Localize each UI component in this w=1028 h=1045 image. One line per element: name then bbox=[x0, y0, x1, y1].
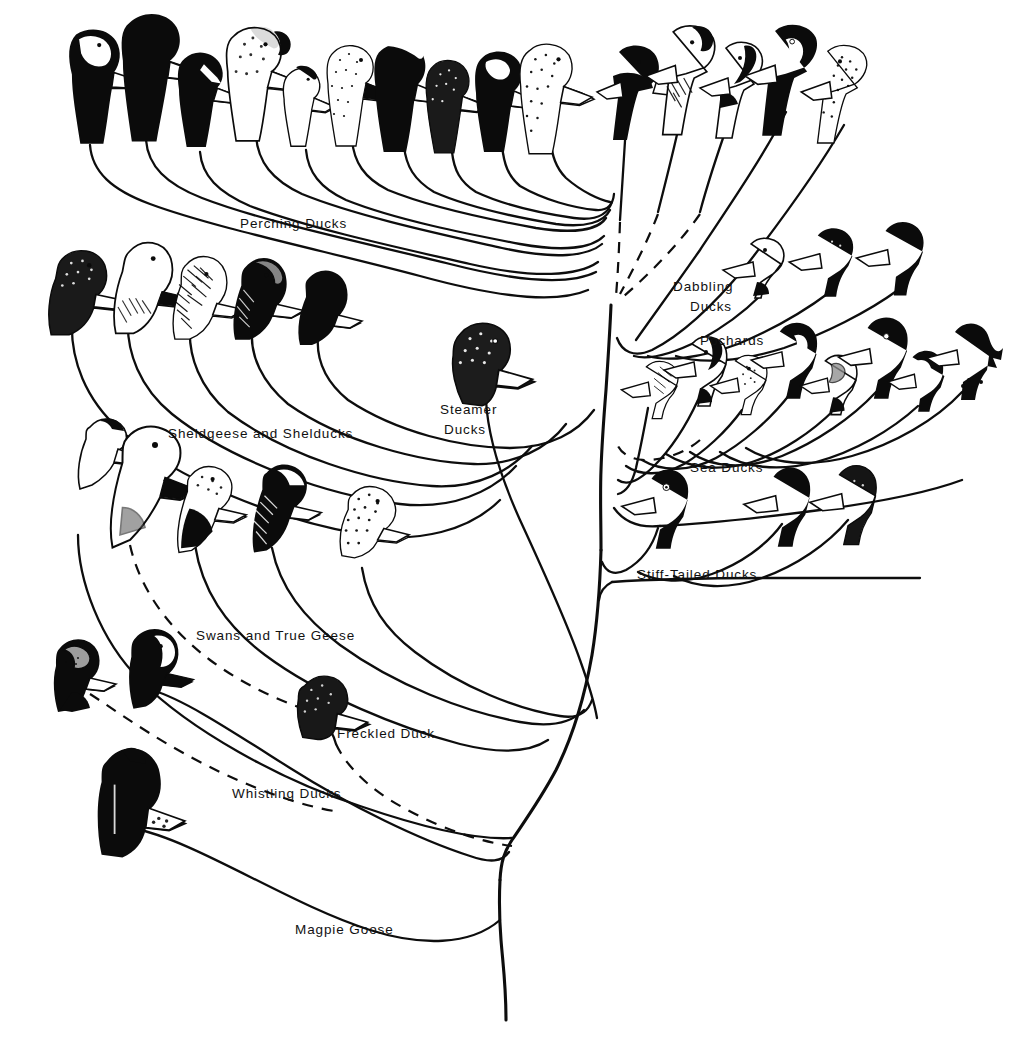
head-group-dabbling-ducks-lower bbox=[723, 222, 924, 298]
branch-perch-10 bbox=[550, 138, 610, 202]
branch-freckled-dashed bbox=[336, 744, 512, 846]
label-pochards: Pochards bbox=[700, 333, 764, 348]
duck-head bbox=[129, 629, 194, 709]
branch-dabble-dashed-2 bbox=[620, 214, 658, 294]
duck-head bbox=[178, 467, 247, 553]
figure-canvas: Perching Ducks Dabbling Ducks Pochards S… bbox=[0, 0, 1028, 1045]
duck-head bbox=[54, 639, 116, 712]
branch-sheld-4 bbox=[252, 330, 566, 464]
duck-head bbox=[789, 228, 853, 296]
branch-poch-dashed bbox=[618, 440, 700, 460]
branch-perch-9 bbox=[502, 146, 614, 210]
branch-perch-3 bbox=[200, 152, 598, 274]
duck-head bbox=[453, 323, 535, 405]
label-dabbling-ducks-line2: Ducks bbox=[690, 299, 732, 314]
branch-swan-4 bbox=[362, 568, 592, 717]
branch-dabble-dashed-1 bbox=[616, 222, 620, 296]
head-group-sheldgeese-shelducks bbox=[49, 243, 362, 345]
head-group-sea-ducks bbox=[622, 466, 876, 549]
label-magpie-goose: Magpie Goose bbox=[295, 922, 394, 937]
duck-head bbox=[745, 25, 817, 136]
head-group-whistling-ducks bbox=[54, 629, 194, 712]
head-group-perching-ducks bbox=[69, 14, 594, 154]
branch-swan-2 bbox=[195, 545, 548, 750]
label-whistling-ducks: Whistling Ducks bbox=[232, 786, 342, 801]
duck-head bbox=[340, 487, 409, 558]
duck-head bbox=[856, 222, 923, 295]
label-perching-ducks: Perching Ducks bbox=[240, 216, 347, 231]
label-sheldgeese-shelducks: Sheldgeese and Shelducks bbox=[168, 426, 353, 441]
trunk-root bbox=[499, 880, 506, 1020]
head-group-dabbling-ducks-upper bbox=[597, 25, 867, 143]
label-steamer-ducks-line1: Steamer bbox=[440, 402, 497, 417]
head-group-steamer-ducks bbox=[453, 323, 535, 405]
duck-head bbox=[646, 26, 715, 135]
label-stiff-tailed-ducks: Stiff-Tailed Ducks bbox=[637, 567, 757, 582]
duck-head bbox=[233, 258, 303, 340]
duck-head bbox=[520, 44, 594, 154]
label-dabbling-ducks-line1-text: Dabbling bbox=[673, 279, 734, 294]
label-freckled-duck: Freckled Duck bbox=[337, 726, 435, 741]
label-swans-true-geese: Swans and True Geese bbox=[196, 628, 355, 643]
phylogenetic-tree-diagram: Perching Ducks Dabbling Ducks Pochards S… bbox=[0, 0, 1028, 1045]
duck-head bbox=[298, 270, 362, 345]
trunk-upper bbox=[601, 305, 611, 550]
label-steamer-ducks-line2: Ducks bbox=[444, 422, 486, 437]
duck-head bbox=[744, 468, 810, 547]
duck-head bbox=[810, 466, 876, 545]
branch-perch-7 bbox=[404, 146, 610, 225]
label-sea-ducks: Sea Ducks bbox=[690, 460, 763, 475]
duck-head bbox=[253, 464, 322, 552]
branch-lines bbox=[72, 112, 962, 1020]
